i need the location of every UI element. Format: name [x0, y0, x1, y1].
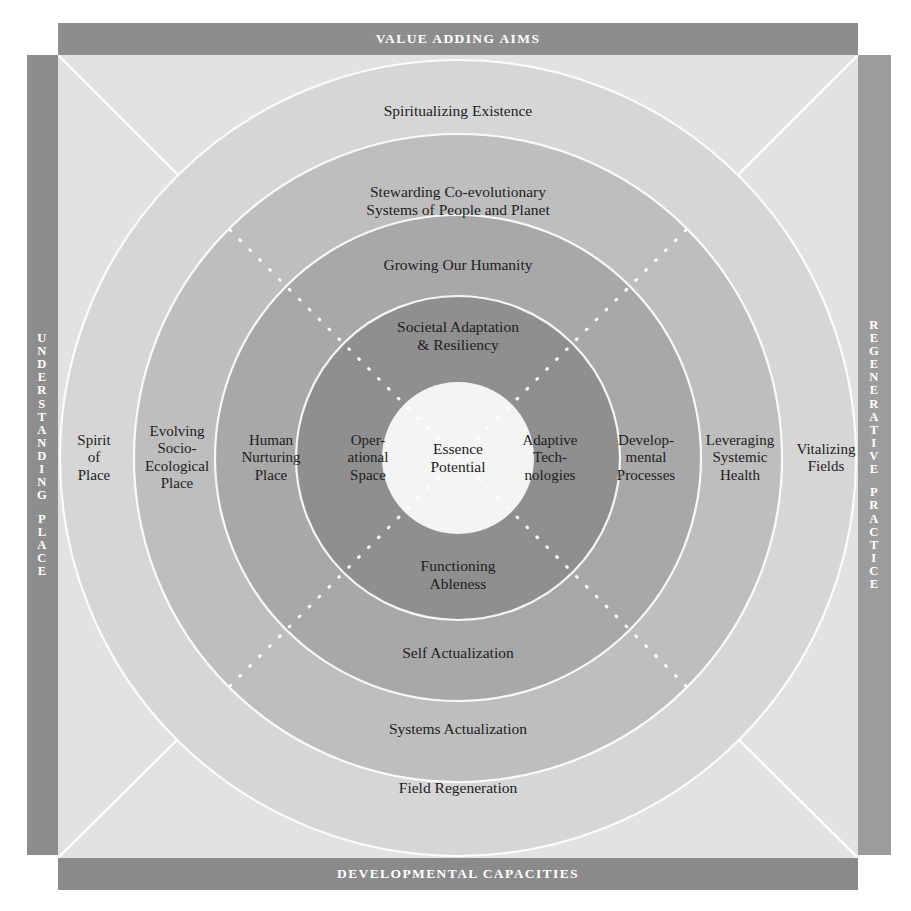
vertical-bar-letter: G: [37, 489, 48, 502]
vertical-bar-letter: E: [870, 384, 880, 397]
bottom-bar-developmental-capacities: DEVELOPMENTAL CAPACITIES: [58, 858, 858, 890]
rings-container: Spiritualizing Existence Stewarding Co-e…: [58, 55, 858, 858]
vertical-bar-letter: L: [38, 526, 48, 539]
vertical-bar-letter: A: [869, 513, 879, 526]
vertical-bar-letter: A: [869, 411, 879, 424]
rings-svg: [58, 55, 858, 858]
vertical-bar-letter: P: [38, 513, 47, 526]
left-bar-understanding-place: UNDERSTANDINGPLACE: [27, 55, 58, 855]
vertical-bar-letter: E: [870, 463, 880, 476]
vertical-bar-letter: T: [38, 411, 48, 424]
top-bar-label: VALUE ADDING AIMS: [376, 31, 541, 47]
vertical-bar-letter: R: [869, 398, 879, 411]
vertical-bar-letter: E: [870, 578, 880, 591]
vertical-bar-letter: E: [38, 565, 48, 578]
right-bar-regenerative-practice: REGENERATIVEPRACTICE: [858, 55, 891, 855]
diagram-canvas: VALUE ADDING AIMS DEVELOPMENTAL CAPACITI…: [0, 0, 911, 911]
vertical-bar-letter: T: [870, 539, 880, 552]
vertical-bar-letter: A: [37, 539, 47, 552]
top-bar-value-adding-aims: VALUE ADDING AIMS: [58, 23, 858, 55]
vertical-bar-letter: T: [870, 424, 880, 437]
vertical-bar-letter: R: [869, 319, 879, 332]
vertical-bar-letter: S: [38, 398, 46, 411]
vertical-bar-letter: R: [869, 499, 879, 512]
vertical-bar-letter: R: [37, 384, 47, 397]
vertical-bar-letter: A: [37, 424, 47, 437]
bottom-bar-label: DEVELOPMENTAL CAPACITIES: [337, 866, 579, 882]
vertical-bar-letter: C: [869, 526, 879, 539]
